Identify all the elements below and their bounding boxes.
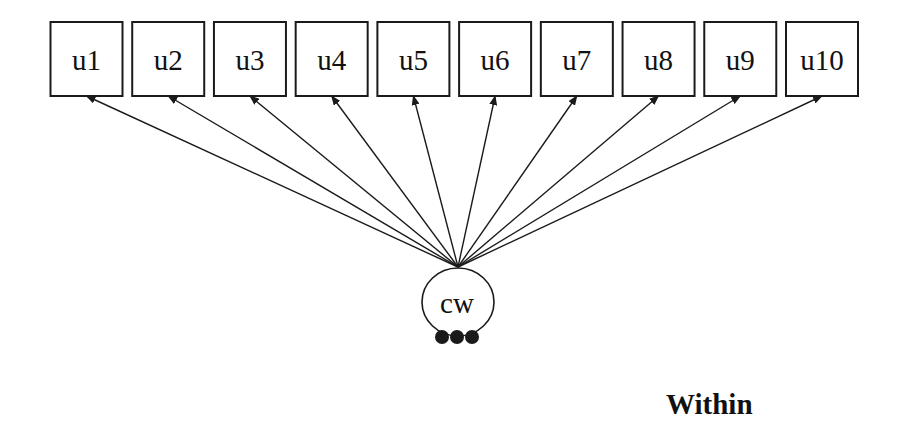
path-diagram: u1u2u3u4u5u6u7u8u9u10cw	[0, 0, 906, 423]
observed-node-label-u5: u5	[399, 44, 428, 76]
observed-node-label-u4: u4	[317, 44, 347, 76]
observed-node-label-u10: u10	[800, 44, 844, 76]
loading-arrow-cw-u10	[458, 96, 822, 267]
observed-node-label-u1: u1	[72, 44, 101, 76]
observed-node-label-u6: u6	[481, 44, 510, 76]
ellipsis-dot	[435, 330, 449, 344]
path-diagram-canvas: u1u2u3u4u5u6u7u8u9u10cw Within	[0, 0, 906, 423]
section-label-within: Within	[666, 390, 753, 419]
loading-arrow-cw-u3	[250, 96, 458, 267]
ellipsis-dot	[450, 330, 464, 344]
observed-node-label-u7: u7	[562, 44, 591, 76]
latent-node-label-cw: cw	[440, 287, 474, 319]
observed-node-label-u2: u2	[154, 44, 183, 76]
observed-node-label-u3: u3	[235, 44, 264, 76]
loading-arrow-cw-u4	[332, 96, 458, 267]
loading-arrow-cw-u9	[458, 96, 740, 267]
observed-node-label-u9: u9	[726, 44, 755, 76]
observed-node-label-u8: u8	[644, 44, 673, 76]
ellipsis-dot	[465, 330, 479, 344]
loading-arrow-cw-u1	[87, 96, 459, 267]
loading-arrow-cw-u2	[168, 96, 458, 267]
loading-arrow-cw-u5	[413, 96, 458, 267]
